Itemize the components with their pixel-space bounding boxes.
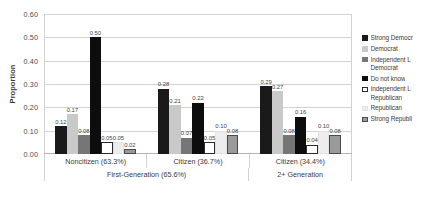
legend-label: Independent LRepublican (371, 85, 411, 101)
bar-slot: 0.07 (181, 14, 193, 154)
legend-swatch-icon (362, 35, 368, 41)
legend-item[interactable]: Do not know (362, 75, 435, 83)
bar-value-label: 0.21 (169, 98, 180, 104)
bar-slot: 0.29 (260, 14, 272, 154)
bar-slot: 0.05 (101, 14, 113, 154)
y-axis-tick-label: 0.10 (24, 126, 38, 135)
legend-label-line2: Republican (371, 94, 411, 102)
legend-label-line2: Democrat (371, 64, 411, 72)
legend: Strong DemocrDemocratIndependent LDemocr… (362, 34, 435, 126)
bar[interactable] (113, 142, 125, 154)
bar-value-label: 0.12 (55, 119, 66, 125)
category-label: Noncitizen (63.3%) (45, 154, 147, 168)
legend-item[interactable]: Republican (362, 104, 435, 112)
bar[interactable] (204, 142, 216, 154)
legend-label-line1: Republican (371, 104, 402, 111)
bar-slot: 0.16 (295, 14, 307, 154)
legend-label: Republican (371, 104, 402, 112)
bar-groups: 0.120.170.080.500.050.050.020.280.210.07… (44, 14, 352, 154)
bar[interactable] (283, 135, 295, 154)
bar-value-label: 0.27 (272, 84, 283, 90)
bar-value-label: 0.16 (295, 109, 306, 115)
legend-item[interactable]: Independent LRepublican (362, 85, 435, 101)
chart-figure: Proportion 0.600.500.400.300.200.100.00 … (0, 0, 435, 202)
bar[interactable] (78, 135, 90, 154)
bar[interactable] (272, 91, 284, 154)
bar[interactable] (295, 117, 307, 154)
y-axis-tick-label: 0.00 (24, 150, 38, 159)
bar-value-label: 0.10 (215, 123, 226, 129)
y-axis-tick-label: 0.60 (24, 10, 38, 19)
bar-group: 0.280.210.070.220.050.100.08 (147, 14, 250, 154)
legend-item[interactable]: Independent LDemocrat (362, 56, 435, 72)
bar[interactable] (169, 105, 181, 154)
bar[interactable] (158, 89, 170, 154)
bar-slot: 0.28 (158, 14, 170, 154)
legend-swatch-icon (362, 46, 368, 52)
legend-label: Strong Democr (371, 34, 413, 42)
supergroup-label: First-Generation (65.6%) (45, 168, 249, 181)
category-axis: Noncitizen (63.3%)Citizen (36.7%)Citizen… (44, 154, 352, 168)
bar[interactable] (227, 135, 239, 154)
bar[interactable] (192, 103, 204, 154)
legend-label: Strong Republi (371, 115, 413, 123)
bar-group: 0.120.170.080.500.050.050.02 (44, 14, 147, 154)
figure-caption (14, 193, 424, 202)
bar[interactable] (90, 37, 102, 154)
legend-swatch-icon (362, 106, 368, 112)
legend-label-line1: Strong Republi (371, 115, 413, 122)
bar-value-label: 0.08 (78, 128, 89, 134)
bar-value-label: 0.08 (227, 128, 238, 134)
bar-value-label: 0.08 (284, 128, 295, 134)
legend-item[interactable]: Strong Republi (362, 115, 435, 123)
legend-swatch-icon (362, 117, 368, 123)
legend-label: Independent LDemocrat (371, 56, 411, 72)
bar[interactable] (101, 142, 113, 154)
legend-label-line1: Strong Democr (371, 34, 413, 41)
bar-slot: 0.17 (67, 14, 79, 154)
legend-label-line1: Independent L (371, 85, 411, 92)
bar-slot: 0.02 (124, 14, 136, 154)
bar-slot: 0.12 (55, 14, 67, 154)
y-axis-title: Proportion (8, 34, 17, 134)
bar-value-label: 0.28 (158, 81, 169, 87)
legend-item[interactable]: Democrat (362, 45, 435, 53)
legend-label-line1: Do not know (371, 75, 406, 82)
bar-value-label: 0.17 (67, 107, 78, 113)
legend-swatch-icon (362, 57, 368, 63)
category-label: Citizen (36.7%) (147, 154, 249, 168)
supergroup-axis: First-Generation (65.6%)2+ Generation (44, 168, 352, 181)
bar[interactable] (215, 131, 227, 154)
bar-slot: 0.10 (215, 14, 227, 154)
bar[interactable] (260, 86, 272, 154)
bar-group: 0.290.270.080.160.040.100.08 (249, 14, 352, 154)
legend-label: Democrat (371, 45, 398, 53)
bar-slot: 0.04 (306, 14, 318, 154)
bar-slot: 0.08 (78, 14, 90, 154)
category-label: Citizen (34.4%) (250, 154, 351, 168)
bar-slot: 0.08 (283, 14, 295, 154)
bar[interactable] (55, 126, 67, 154)
bar[interactable] (329, 135, 341, 154)
bar-slot: 0.05 (113, 14, 125, 154)
y-axis: Proportion 0.600.500.400.300.200.100.00 (0, 14, 42, 154)
bar[interactable] (318, 131, 330, 154)
bar[interactable] (306, 145, 318, 154)
bar-slot: 0.08 (329, 14, 341, 154)
bar-slot: 0.50 (90, 14, 102, 154)
y-axis-tick-label: 0.40 (24, 56, 38, 65)
bar-value-label: 0.50 (90, 30, 101, 36)
y-axis-tick-label: 0.20 (24, 103, 38, 112)
bar-value-label: 0.05 (101, 135, 112, 141)
bar-value-label: 0.22 (192, 95, 203, 101)
bar-value-label: 0.07 (181, 130, 192, 136)
bar-value-label: 0.08 (330, 128, 341, 134)
bar[interactable] (181, 138, 193, 154)
bar[interactable] (67, 114, 79, 154)
bar-value-label: 0.10 (318, 123, 329, 129)
bar-value-label: 0.05 (204, 135, 215, 141)
legend-item[interactable]: Strong Democr (362, 34, 435, 42)
bar-slot: 0.22 (192, 14, 204, 154)
bar-slot: 0.05 (204, 14, 216, 154)
y-axis-tick-label: 0.30 (24, 80, 38, 89)
